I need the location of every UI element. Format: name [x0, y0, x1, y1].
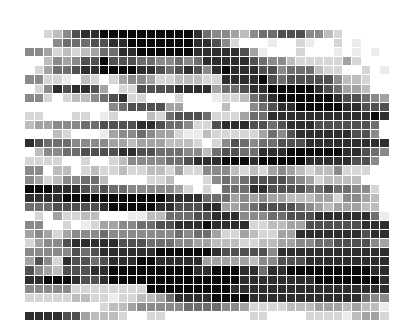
grid-cell: [343, 112, 351, 120]
grid-cell: [109, 285, 117, 293]
grid-cell: [362, 312, 370, 320]
grid-cell: [91, 121, 99, 129]
grid-cell: [250, 103, 258, 111]
grid-cell: [203, 221, 211, 229]
grid-cell: [25, 248, 33, 256]
grid-cell: [203, 266, 211, 274]
grid-cell: [137, 257, 145, 265]
grid-cell: [137, 194, 145, 202]
grid-cell: [156, 75, 164, 83]
grid-cell: [231, 57, 239, 65]
grid-cell: [231, 176, 239, 184]
grid-cell: [35, 130, 43, 138]
grid-cell: [184, 85, 192, 93]
grid-cell: [315, 285, 323, 293]
grid-cell: [231, 285, 239, 293]
grid-cell: [380, 112, 388, 120]
grid-cell: [231, 30, 239, 38]
grid-cell: [63, 48, 71, 56]
grid-cell: [324, 39, 332, 47]
grid-cell: [44, 30, 52, 38]
grid-cell: [175, 66, 183, 74]
grid-cell: [81, 57, 89, 65]
grid-cell: [91, 239, 99, 247]
grid-cell: [128, 203, 136, 211]
grid-cell: [35, 57, 43, 65]
grid-cell: [380, 312, 388, 320]
grid-cell: [53, 248, 61, 256]
grid-cell: [119, 157, 127, 165]
grid-cell: [166, 39, 174, 47]
grid-cell: [259, 221, 267, 229]
grid-cell: [278, 194, 286, 202]
grid-cell: [100, 157, 108, 165]
grid-cell: [315, 75, 323, 83]
grid-cell: [72, 57, 80, 65]
grid-cell: [343, 221, 351, 229]
grid-cell: [343, 166, 351, 174]
grid-cell: [100, 130, 108, 138]
grid-cell: [362, 303, 370, 311]
grid-cell: [119, 194, 127, 202]
grid-cell: [156, 185, 164, 193]
grid-cell: [203, 85, 211, 93]
grid-cell: [119, 221, 127, 229]
grid-cell: [44, 239, 52, 247]
grid-cell: [16, 30, 24, 38]
grid-cell: [128, 303, 136, 311]
grid-cell: [44, 85, 52, 93]
grid-cell: [81, 230, 89, 238]
grid-cell: [343, 103, 351, 111]
grid-cell: [100, 312, 108, 320]
grid-cell: [334, 239, 342, 247]
grid-cell: [184, 166, 192, 174]
grid-cell: [44, 194, 52, 202]
grid-cell: [81, 212, 89, 220]
grid-cell: [315, 157, 323, 165]
grid-cell: [334, 166, 342, 174]
grid-cell: [362, 48, 370, 56]
grid-cell: [231, 103, 239, 111]
grid-cell: [362, 75, 370, 83]
grid-cell: [44, 103, 52, 111]
grid-cell: [203, 148, 211, 156]
grid-cell: [212, 176, 220, 184]
grid-cell: [128, 194, 136, 202]
grid-cell: [306, 39, 314, 47]
grid-cell: [63, 248, 71, 256]
grid-cell: [296, 257, 304, 265]
grid-cell: [203, 248, 211, 256]
grid-cell: [352, 48, 360, 56]
grid-cell: [315, 203, 323, 211]
grid-cell: [128, 294, 136, 302]
grid-cell: [306, 176, 314, 184]
grid-cell: [16, 294, 24, 302]
grid-cell: [222, 276, 230, 284]
grid-cell: [278, 294, 286, 302]
grid-cell: [231, 212, 239, 220]
grid-cell: [166, 194, 174, 202]
grid-cell: [240, 75, 248, 83]
grid-cell: [119, 39, 127, 47]
grid-cell: [212, 294, 220, 302]
grid-cell: [81, 303, 89, 311]
grid-cell: [315, 176, 323, 184]
grid-cell: [343, 176, 351, 184]
grid-cell: [119, 30, 127, 38]
grid-cell: [184, 276, 192, 284]
grid-cell: [203, 57, 211, 65]
grid-cell: [212, 85, 220, 93]
grid-cell: [259, 285, 267, 293]
grid-cell: [278, 230, 286, 238]
grid-cell: [315, 39, 323, 47]
grid-cell: [259, 103, 267, 111]
grid-cell: [278, 257, 286, 265]
grid-cell: [296, 285, 304, 293]
grid-cell: [119, 130, 127, 138]
grid-cell: [35, 176, 43, 184]
grid-cell: [91, 221, 99, 229]
grid-cell: [343, 257, 351, 265]
grid-cell: [35, 121, 43, 129]
grid-cell: [25, 276, 33, 284]
grid-cell: [194, 75, 202, 83]
